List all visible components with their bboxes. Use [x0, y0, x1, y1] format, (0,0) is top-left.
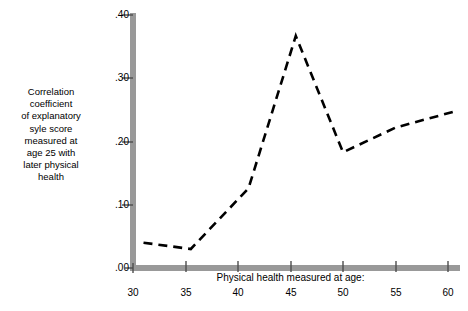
x-axis-line [130, 265, 460, 271]
x-tick-label-50: 50 [330, 288, 356, 298]
x-tick-label-45: 45 [278, 288, 304, 298]
x-axis-title: Physical health measured at age: [133, 272, 448, 283]
data-series-line [144, 36, 454, 249]
y-tick-label-30: .30 [103, 73, 129, 83]
x-tick-label-60: 60 [435, 288, 461, 298]
y-tick-label-40: .40 [103, 10, 129, 20]
x-tick-label-35: 35 [173, 288, 199, 298]
x-tick-label-55: 55 [383, 288, 409, 298]
x-tick-label-30: 30 [120, 288, 146, 298]
plot-area [0, 0, 468, 311]
chart-figure: Correlation coefficient of explanatory s… [0, 0, 468, 311]
x-tick-label-40: 40 [225, 288, 251, 298]
y-tick-label-10: .10 [103, 200, 129, 210]
y-tick-label-00: .00 [103, 263, 129, 273]
y-tick-label-20: .20 [103, 137, 129, 147]
